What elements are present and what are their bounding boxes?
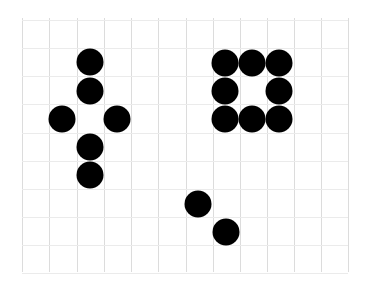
grid-horizontal-line (22, 245, 348, 246)
dot (266, 106, 293, 133)
dot (239, 50, 266, 77)
grid-vertical-line (104, 18, 105, 272)
dot (213, 219, 240, 246)
dot (266, 78, 293, 105)
grid-horizontal-line (22, 133, 348, 134)
dot (49, 106, 76, 133)
dot (239, 106, 266, 133)
dot (266, 50, 293, 77)
grid-vertical-line (49, 18, 50, 272)
dot (212, 50, 239, 77)
dot (185, 191, 212, 218)
grid-vertical-line (186, 18, 187, 272)
dot (77, 49, 104, 76)
dot (77, 134, 104, 161)
dot (77, 162, 104, 189)
grid-horizontal-line (22, 189, 348, 190)
grid-vertical-line (294, 18, 295, 272)
grid-horizontal-line (22, 161, 348, 162)
dot (212, 78, 239, 105)
dot (77, 78, 104, 105)
dot-grid-diagram (0, 0, 365, 285)
grid-horizontal-line (22, 217, 348, 218)
grid-horizontal-line (22, 20, 348, 21)
grid-horizontal-line (22, 104, 348, 105)
grid-vertical-line (348, 18, 349, 272)
grid-horizontal-line (22, 76, 348, 77)
grid-vertical-line (158, 18, 159, 272)
grid-horizontal-line (22, 48, 348, 49)
grid-vertical-line (321, 18, 322, 272)
dot (104, 106, 131, 133)
grid-horizontal-line (22, 273, 348, 274)
grid-vertical-line (131, 18, 132, 272)
grid-vertical-line (22, 18, 23, 272)
dot (212, 106, 239, 133)
